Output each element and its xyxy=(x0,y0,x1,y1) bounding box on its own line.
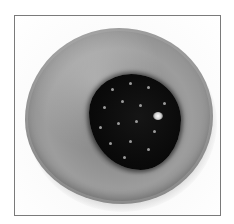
drupelet xyxy=(103,106,106,109)
drupelet xyxy=(163,102,166,105)
drupelet xyxy=(109,142,112,145)
drupelet xyxy=(147,148,150,151)
drupelet xyxy=(139,104,142,107)
drupelet xyxy=(147,86,150,89)
berry-highlight xyxy=(153,112,163,120)
drupelet xyxy=(111,88,114,91)
drupelet xyxy=(117,122,120,125)
drupelet xyxy=(99,126,102,129)
drupelet xyxy=(123,156,126,159)
donut xyxy=(25,28,213,204)
drupelet xyxy=(129,82,132,85)
drupelet xyxy=(121,100,124,103)
drupelet xyxy=(135,120,138,123)
photo-frame xyxy=(14,15,221,216)
drupelet xyxy=(129,140,132,143)
drupelet xyxy=(153,130,156,133)
